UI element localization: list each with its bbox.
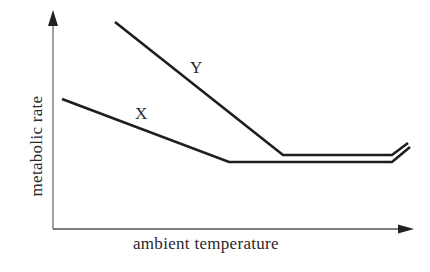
x-axis-arrow-icon [398,225,414,234]
y-axis-label: metabolic rate [27,91,47,201]
series-y-label: Y [190,58,202,78]
chart-canvas [0,0,430,272]
x-axis-label: ambient temperature [133,234,279,254]
series-x-line [62,99,410,162]
series-x-label: X [135,104,147,124]
y-axis-arrow-icon [48,10,58,26]
